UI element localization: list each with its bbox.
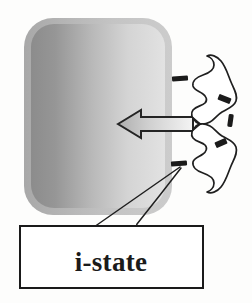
i-state-mark-middle-right — [227, 114, 234, 128]
receptor-squiggle-upper — [192, 55, 237, 124]
i-state-mark-upper-left — [172, 75, 188, 81]
i-state-label-text: i-state — [75, 247, 148, 277]
i-state-mark-lower-left — [171, 160, 187, 166]
diagram-canvas: i-state — [0, 0, 252, 303]
diagram-figure: i-state — [0, 0, 252, 303]
receptor-squiggle-lower — [192, 124, 237, 193]
